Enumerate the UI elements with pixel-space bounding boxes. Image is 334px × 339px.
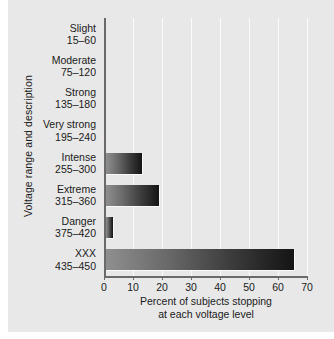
bar (106, 217, 113, 238)
category-range: 75–120 (0, 66, 96, 78)
x-axis-tick-label: 50 (243, 281, 255, 293)
category-name: Slight (70, 22, 96, 34)
category-range: 135–180 (0, 98, 96, 110)
category-label: Extreme315–360 (0, 183, 96, 207)
gridline (191, 18, 192, 276)
x-axis-tick (278, 276, 279, 280)
x-axis-tick (133, 276, 134, 280)
category-label: Danger375–420 (0, 215, 96, 239)
x-axis-tick-label: 70 (301, 281, 313, 293)
category-range: 195–240 (0, 131, 96, 143)
category-label: Very strong195–240 (0, 118, 96, 142)
x-axis-tick (162, 276, 163, 280)
x-axis-tick-label: 40 (214, 281, 226, 293)
x-axis-tick (191, 276, 192, 280)
x-axis-tick-label: 20 (156, 281, 168, 293)
category-name: Moderate (52, 54, 96, 66)
category-label: Slight15–60 (0, 22, 96, 46)
category-label: Moderate75–120 (0, 54, 96, 78)
category-label: XXX435–450 (0, 247, 96, 271)
gridline (220, 18, 221, 276)
category-range: 315–360 (0, 195, 96, 207)
gridline (133, 18, 134, 276)
plot-area: 010203040506070 Slight15–60Moderate75–12… (104, 18, 307, 276)
bar (106, 185, 160, 206)
x-axis-tick (249, 276, 250, 280)
category-label: Intense255–300 (0, 151, 96, 175)
x-axis-tick (104, 276, 105, 280)
bar (106, 153, 142, 174)
category-name: Strong (65, 86, 96, 98)
x-axis-tick (220, 276, 221, 280)
gridline (307, 18, 308, 276)
bar (106, 249, 295, 270)
chart-figure: Voltage range and description 0102030405… (8, 0, 334, 332)
category-range: 435–450 (0, 260, 96, 272)
category-name: Extreme (57, 183, 96, 195)
x-axis-tick-label: 0 (101, 281, 107, 293)
category-name: Danger (62, 215, 96, 227)
x-axis-title-line1: Percent of subjects stopping (104, 295, 308, 308)
category-label: Strong135–180 (0, 86, 96, 110)
category-name: XXX (75, 247, 96, 259)
category-range: 255–300 (0, 163, 96, 175)
x-axis-tick-label: 60 (272, 281, 284, 293)
gridline (249, 18, 250, 276)
category-name: Very strong (43, 118, 96, 130)
x-axis-tick-label: 30 (185, 281, 197, 293)
gridline (278, 18, 279, 276)
category-range: 15–60 (0, 34, 96, 46)
category-name: Intense (62, 151, 96, 163)
gridline (162, 18, 163, 276)
x-axis-tick-label: 10 (127, 281, 139, 293)
x-axis-title-line2: at each voltage level (104, 308, 308, 321)
x-axis-tick (307, 276, 308, 280)
x-axis-title: Percent of subjects stopping at each vol… (104, 295, 308, 320)
category-range: 375–420 (0, 227, 96, 239)
